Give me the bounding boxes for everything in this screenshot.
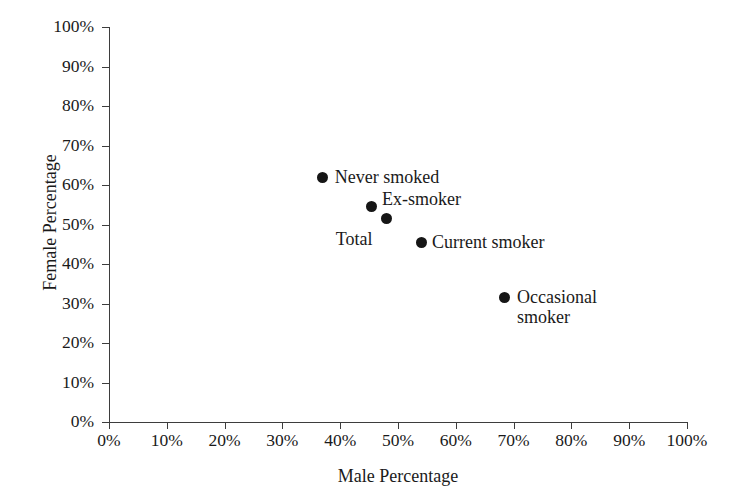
x-axis-tick (340, 422, 341, 429)
data-point[interactable] (499, 292, 510, 303)
x-axis-tick (167, 422, 168, 429)
y-axis-tick (102, 304, 109, 305)
y-axis-tick (102, 67, 109, 68)
data-point-label: Never smoked (335, 167, 439, 187)
data-point-label: Current smoker (432, 232, 544, 252)
scatter-chart: 0%10%20%30%40%50%60%70%80%90%100% 0%10%2… (0, 0, 740, 504)
data-point-label: Ex-smoker (382, 189, 461, 209)
data-point[interactable] (381, 213, 392, 224)
y-axis-tick (102, 264, 109, 265)
y-axis-title: Female Percentage (40, 23, 61, 423)
data-point[interactable] (366, 201, 377, 212)
x-axis-tick (514, 422, 515, 429)
data-point-label: Total (336, 229, 373, 249)
x-axis-tick (571, 422, 572, 429)
x-axis-tick (398, 422, 399, 429)
x-axis-tick (282, 422, 283, 429)
data-point-label: Occasional smoker (517, 287, 597, 327)
data-point[interactable] (317, 172, 328, 183)
x-axis-tick-label: 100% (647, 432, 727, 450)
y-axis-tick (102, 343, 109, 344)
y-axis-tick (102, 106, 109, 107)
x-axis-tick (109, 422, 110, 429)
y-axis-tick (102, 422, 109, 423)
y-axis-tick (102, 27, 109, 28)
y-axis-tick (102, 383, 109, 384)
x-axis-tick (225, 422, 226, 429)
y-axis-line (109, 27, 110, 423)
y-axis-tick (102, 185, 109, 186)
x-axis-tick (456, 422, 457, 429)
y-axis-tick (102, 146, 109, 147)
x-axis-tick (687, 422, 688, 429)
y-axis-tick (102, 225, 109, 226)
x-axis-title: Male Percentage (109, 466, 687, 487)
data-point[interactable] (416, 237, 427, 248)
x-axis-tick (629, 422, 630, 429)
